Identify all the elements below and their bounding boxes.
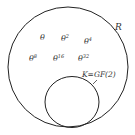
outer-set-label: R <box>114 22 122 32</box>
label-leader-line <box>93 80 97 84</box>
element-theta-8: θ8 <box>29 53 37 63</box>
outer-circle-R <box>8 7 128 127</box>
venn-diagram: R θ θ2 θ4 θ8 θ16 θ32 K=GF(2) <box>0 0 135 135</box>
element-theta-32: θ32 <box>78 53 89 63</box>
inner-set-label: K=GF(2) <box>81 70 116 79</box>
element-theta-16: θ16 <box>53 53 65 63</box>
inner-circle-K <box>45 77 99 128</box>
element-theta-4: θ4 <box>84 36 92 46</box>
element-theta-1: θ <box>40 33 45 42</box>
element-theta-2: θ2 <box>61 33 69 43</box>
